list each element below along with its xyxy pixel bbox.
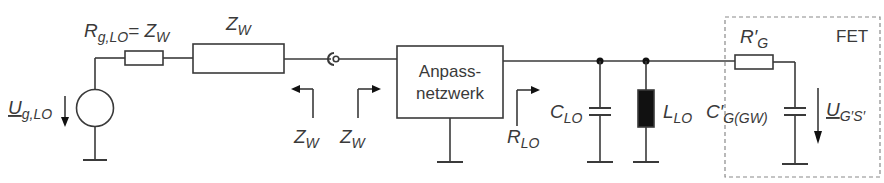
source-voltage-arrow: [61, 96, 69, 127]
capacitor-clo-label: CLO: [550, 101, 583, 126]
ref-left-label: ZW: [293, 126, 321, 151]
transmission-line-label: ZW: [225, 13, 253, 38]
gate-voltage-label: UG′S′: [826, 99, 867, 124]
capacitor-clo: [587, 58, 613, 163]
gate-capacitor-label: C′G(GW): [706, 101, 768, 126]
inductor-llo: [633, 58, 659, 163]
voltage-source: [77, 58, 114, 160]
gate-voltage-arrow: [814, 88, 822, 144]
ref-arrow-right: [358, 85, 381, 118]
matching-network-box: [397, 46, 503, 118]
source-voltage-label: Ug,LO: [8, 97, 52, 122]
ref-arrow-rlo: [517, 86, 540, 126]
ref-arrow-left: [291, 85, 313, 118]
circuit-diagram: Rg,LO= ZW ZW Ug,LO ZW ZW Anpass- netzwer…: [0, 0, 884, 183]
source-resistor-label: Rg,LO= ZW: [84, 20, 171, 45]
source-resistor: [125, 51, 163, 65]
transmission-line: [193, 44, 284, 73]
matching-network-label-1: Anpass-: [419, 62, 481, 81]
ref-right-label: ZW: [339, 126, 367, 151]
gate-resistor-label: R′G: [740, 26, 768, 51]
matching-network-label-2: netzwerk: [416, 84, 485, 103]
gate-capacitor: [782, 108, 808, 164]
inductor-llo-label: LLO: [663, 101, 692, 126]
load-resistance-label: RLO: [507, 126, 540, 151]
fet-label: FET: [836, 27, 868, 46]
gate-resistor: [735, 55, 773, 69]
